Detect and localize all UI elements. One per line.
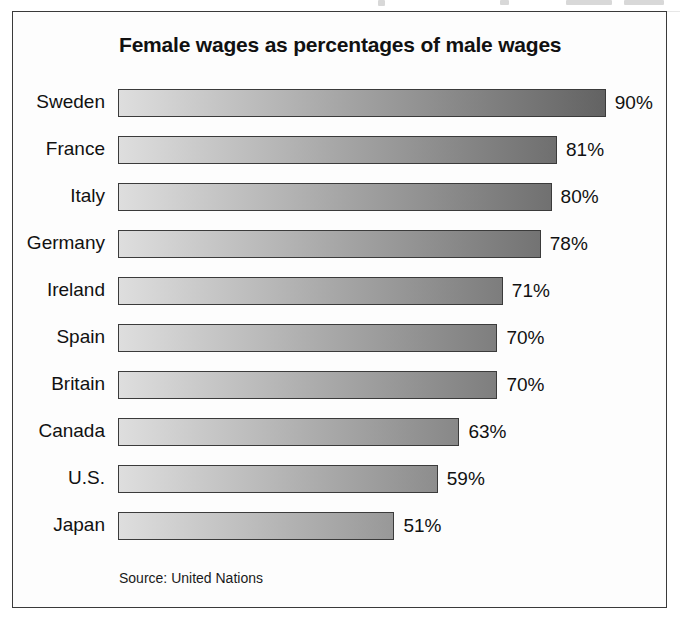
bar-value-label: 90%: [606, 92, 653, 114]
bar-value-label: 71%: [503, 280, 550, 302]
bar-track: 71%: [118, 277, 658, 305]
bar-track: 80%: [118, 183, 658, 211]
bar-category-label: Italy: [13, 185, 105, 207]
bar-track: 70%: [118, 324, 658, 352]
bar-value-label: 70%: [497, 374, 544, 396]
bar-value-label: 70%: [497, 327, 544, 349]
bar-chart-plot-area: Sweden90%France81%Italy80%Germany78%Irel…: [13, 78, 666, 548]
bar-track: 63%: [118, 418, 658, 446]
bar-value-label: 63%: [459, 421, 506, 443]
bar-fill: [118, 230, 541, 258]
bar-row: Germany78%: [13, 219, 666, 266]
bar-row: Canada63%: [13, 407, 666, 454]
bar-fill: [118, 465, 438, 493]
bar-category-label: Britain: [13, 373, 105, 395]
bar-category-label: Japan: [13, 514, 105, 536]
bar-category-label: U.S.: [13, 467, 105, 489]
bar-track: 51%: [118, 512, 658, 540]
bar-fill: [118, 277, 503, 305]
bar-row: Spain70%: [13, 313, 666, 360]
bar-row: Sweden90%: [13, 78, 666, 125]
bar-value-label: 81%: [557, 139, 604, 161]
bar-category-label: Germany: [13, 232, 105, 254]
bar-value-label: 80%: [552, 186, 599, 208]
bar-fill: [118, 324, 497, 352]
bar-track: 81%: [118, 136, 658, 164]
bar-category-label: Sweden: [13, 91, 105, 113]
bar-category-label: Canada: [13, 420, 105, 442]
chart-frame: Female wages as percentages of male wage…: [12, 11, 667, 608]
bar-row: Japan51%: [13, 501, 666, 548]
bar-category-label: Ireland: [13, 279, 105, 301]
bar-track: 78%: [118, 230, 658, 258]
bar-row: Italy80%: [13, 172, 666, 219]
bar-value-label: 59%: [438, 468, 485, 490]
bar-category-label: France: [13, 138, 105, 160]
bar-row: U.S.59%: [13, 454, 666, 501]
bar-fill: [118, 371, 497, 399]
bar-fill: [118, 89, 606, 117]
bar-track: 70%: [118, 371, 658, 399]
chart-source-note: Source: United Nations: [119, 570, 263, 586]
bar-row: Britain70%: [13, 360, 666, 407]
bar-fill: [118, 183, 552, 211]
bar-row: Ireland71%: [13, 266, 666, 313]
bar-category-label: Spain: [13, 326, 105, 348]
chart-title: Female wages as percentages of male wage…: [119, 33, 561, 57]
bar-fill: [118, 136, 557, 164]
bar-row: France81%: [13, 125, 666, 172]
bar-value-label: 51%: [394, 515, 441, 537]
bar-track: 90%: [118, 89, 658, 117]
bar-value-label: 78%: [541, 233, 588, 255]
bar-fill: [118, 512, 394, 540]
bar-track: 59%: [118, 465, 658, 493]
bar-fill: [118, 418, 459, 446]
